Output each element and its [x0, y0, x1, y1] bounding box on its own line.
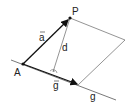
parallelogram-outline: [70, 18, 125, 85]
label-vector-g: g: [53, 80, 59, 91]
label-A: A: [14, 67, 21, 78]
label-line-g: g: [90, 91, 96, 102]
label-vector-a: a: [39, 32, 45, 43]
label-P: P: [72, 6, 79, 17]
point-A: [21, 62, 24, 65]
label-d: d: [62, 42, 68, 53]
distance-diagram: P A a d g g: [0, 0, 134, 112]
vector-g-arrow: [23, 64, 77, 84]
